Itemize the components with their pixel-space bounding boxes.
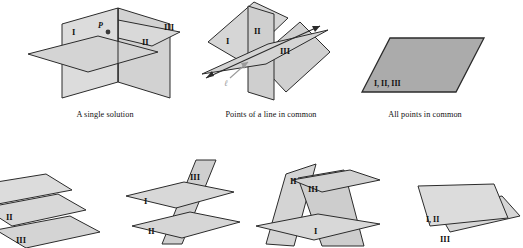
caption-line-in-common: Points of a line in common xyxy=(186,110,356,119)
caption-single-solution: A single solution xyxy=(20,110,190,119)
panel-single-solution: P I II III xyxy=(20,2,190,107)
diagram-all-points-in-common: I, II, III xyxy=(358,30,498,102)
panel-line-in-common: ℓ I II III xyxy=(196,0,346,108)
intersection-point-marker xyxy=(106,30,111,35)
diagram-single-solution: P I II III xyxy=(20,2,190,107)
diagram-two-parallel-cut: III I II xyxy=(118,152,248,247)
plane-label-three: III xyxy=(308,184,319,194)
point-label-p: P xyxy=(98,21,103,30)
diagram-three-parallel-planes: I II III xyxy=(0,168,110,248)
panel-all-points-in-common: I, II, III xyxy=(358,30,498,102)
plane-label-two: II xyxy=(142,37,149,47)
line-label-ell: ℓ xyxy=(224,78,228,88)
panel-three-parallel-planes: I II III xyxy=(0,168,110,248)
plane-label-three: III xyxy=(440,234,451,244)
plane-label-two: II xyxy=(254,26,261,36)
plane-label-two: II xyxy=(290,176,297,186)
plane-one-surface xyxy=(126,182,234,208)
plane-label-two: II xyxy=(6,212,13,222)
plane-label-all: I, II, III xyxy=(374,79,401,88)
caption-all-points-in-common: All points in common xyxy=(345,110,505,119)
plane-label-three: III xyxy=(190,172,201,182)
diagram-line-in-common: ℓ I II III xyxy=(196,0,346,108)
plane-label-two: II xyxy=(148,226,155,236)
panel-coincident-and-parallel: I, II III xyxy=(398,182,523,248)
panel-prism-no-common-point: II III I xyxy=(252,158,392,248)
plane-label-three: III xyxy=(16,235,27,245)
diagram-coincident-and-parallel: I, II III xyxy=(398,182,523,248)
panel-two-parallel-cut-by-third: III I II xyxy=(118,152,248,247)
plane-label-three: III xyxy=(280,46,291,56)
plane-label-one-two: I, II xyxy=(426,215,439,224)
diagram-prism-no-common-point: II III I xyxy=(252,158,392,248)
plane-label-three: III xyxy=(164,22,175,32)
